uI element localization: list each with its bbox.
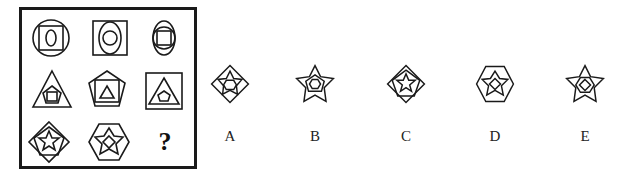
option-e-figure[interactable]: [562, 61, 608, 107]
option-c-figure[interactable]: [383, 61, 429, 107]
option-a-label[interactable]: A: [210, 128, 250, 145]
cell-r1c3-ellipse-circle-square: [138, 13, 188, 63]
cell-r2c3-square-triangle-pentagon: [140, 65, 190, 115]
cell-r1c1-circle-square-ellipse: [26, 13, 76, 63]
option-d-figure[interactable]: [472, 61, 518, 107]
option-c-label[interactable]: C: [386, 128, 426, 145]
option-e-label[interactable]: E: [565, 128, 605, 145]
cell-r2c1-triangle-pentagon-square: [26, 65, 76, 115]
option-b-figure[interactable]: [292, 61, 338, 107]
cell-r1c2-square-ellipse-circle: [84, 13, 134, 63]
option-d-label[interactable]: D: [475, 128, 515, 145]
cell-r3c2-hexagon-star-diamond: [84, 117, 134, 167]
missing-cell-question-mark: ?: [140, 117, 190, 167]
cell-r3c1-diamond-pentagon-star: [24, 117, 74, 167]
option-b-label[interactable]: B: [295, 128, 335, 145]
cell-r2c2-pentagon-square-triangle: [82, 65, 132, 115]
option-a-figure[interactable]: [207, 61, 253, 107]
